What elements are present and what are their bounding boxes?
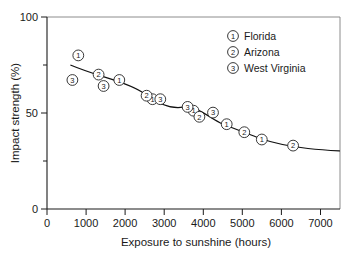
marker-symbol: 1 (225, 120, 229, 129)
x-tick-label-4000: 4000 (191, 217, 215, 229)
data-point-arizona: 2 (93, 69, 104, 80)
data-point-florida: 1 (114, 75, 125, 86)
marker-symbol: 2 (242, 128, 246, 137)
data-point-florida: 1 (256, 134, 267, 145)
marker-symbol: 1 (117, 76, 121, 85)
impact-strength-chart: 100 50 0 0 1000 2000 3000 4000 5000 6000… (0, 0, 358, 260)
x-tick-label-2000: 2000 (113, 217, 137, 229)
marker-symbol: 3 (102, 82, 106, 91)
x-tick-label-7000: 7000 (308, 217, 332, 229)
legend-symbol: 3 (231, 64, 235, 73)
x-tick-label-6000: 6000 (269, 217, 293, 229)
legend-label-arizona: Arizona (244, 46, 280, 58)
marker-symbol: 3 (186, 103, 190, 112)
marker-symbol: 1 (76, 51, 80, 60)
chart-canvas: 100 50 0 0 1000 2000 3000 4000 5000 6000… (0, 0, 358, 260)
data-point-west-virginia: 3 (182, 102, 193, 113)
x-tick-label-1000: 1000 (74, 217, 98, 229)
data-point-west-virginia: 3 (98, 81, 109, 92)
y-axis-title: Impact strength (%) (9, 63, 21, 164)
x-axis-title: Exposure to sunshine (hours) (121, 236, 271, 248)
data-point-arizona: 2 (194, 111, 205, 122)
marker-symbol: 2 (197, 113, 201, 122)
x-axis-ticks (47, 209, 321, 215)
legend-item-west-virginia: 3 West Virginia (228, 62, 306, 74)
y-tick-label-100: 100 (20, 11, 38, 23)
fit-curve (70, 65, 340, 151)
legend-item-florida: 1 Florida (228, 30, 277, 42)
marker-symbol: 3 (211, 108, 215, 117)
data-point-arizona: 2 (141, 90, 152, 101)
data-point-west-virginia: 3 (208, 107, 219, 118)
legend-label-florida: Florida (244, 30, 276, 42)
x-tick-label-5000: 5000 (230, 217, 254, 229)
data-point-arizona: 2 (239, 127, 250, 138)
y-tick-label-50: 50 (26, 107, 38, 119)
legend-item-arizona: 2 Arizona (228, 46, 280, 58)
y-axis-tick-labels: 100 50 0 (20, 11, 38, 215)
legend-label-west-virginia: West Virginia (244, 62, 306, 74)
legend: 1 Florida 2 Arizona 3 West Virginia (228, 30, 306, 74)
marker-symbol: 1 (260, 135, 264, 144)
marker-symbol: 2 (97, 70, 101, 79)
legend-symbol: 1 (231, 32, 235, 41)
marker-symbol: 2 (145, 91, 149, 100)
data-point-west-virginia: 3 (67, 75, 78, 86)
x-tick-label-0: 0 (44, 217, 50, 229)
marker-symbol: 3 (70, 76, 74, 85)
x-tick-label-3000: 3000 (152, 217, 176, 229)
data-point-florida: 1 (221, 119, 232, 130)
marker-symbol: 3 (158, 95, 162, 104)
data-point-west-virginia: 3 (155, 94, 166, 105)
y-axis-ticks (41, 17, 47, 209)
data-point-arizona: 2 (288, 140, 299, 151)
legend-symbol: 2 (231, 48, 235, 57)
y-tick-label-0: 0 (32, 203, 38, 215)
data-point-florida: 1 (73, 50, 84, 61)
x-axis-tick-labels: 0 1000 2000 3000 4000 5000 6000 7000 (44, 217, 333, 229)
marker-symbol: 2 (291, 141, 295, 150)
